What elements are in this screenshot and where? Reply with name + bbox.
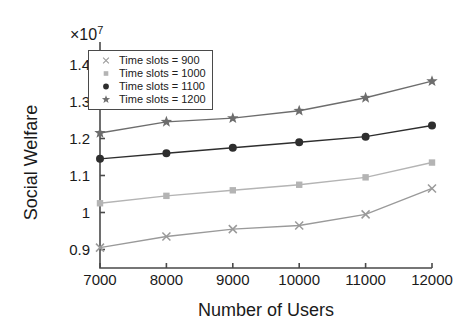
square-icon [104,71,109,76]
square-icon [93,67,119,80]
filled-circle-icon [229,144,237,152]
filled-circle-icon [96,155,104,163]
data-series [97,159,435,206]
legend-item[interactable]: Time slots = 1100 [93,80,206,93]
x-axis-tick-label: 7000 [65,272,135,287]
legend-item-label: Time slots = 1100 [119,80,205,93]
cross-x-icon [428,184,436,192]
x-axis-tick-label: 9000 [198,272,268,287]
x-axis-tick-label: 11000 [331,272,401,287]
star-icon [161,116,172,127]
star-icon [102,95,110,103]
star-icon [227,112,238,123]
legend-item-label: Time slots = 1000 [119,67,206,80]
legend-item[interactable]: Time slots = 1200 [93,93,206,106]
filled-circle-icon [428,122,436,130]
star-icon [360,92,371,103]
filled-circle-icon [162,149,170,157]
filled-circle-icon [362,133,370,141]
data-series [96,122,436,163]
series-line [100,163,432,204]
square-icon [230,187,236,193]
filled-circle-icon [295,138,303,146]
data-series [96,184,436,251]
x-axis-tick-label: 8000 [131,272,201,287]
cross-x-icon [103,58,109,64]
chart-legend: Time slots = 900Time slots = 1000Time sl… [88,50,213,110]
filled-circle-icon [103,84,109,90]
star-icon [426,75,437,86]
x-axis-tick-label: 10000 [264,272,334,287]
legend-item[interactable]: Time slots = 1000 [93,67,206,80]
filled-circle-icon [93,80,119,93]
square-icon [163,193,169,199]
square-icon [362,174,368,180]
chart-figure: ×107 Social Welfare Number of Users 0.91… [0,0,472,333]
square-icon [429,159,435,165]
x-axis-tick-label: 12000 [397,272,467,287]
star-icon [93,93,119,106]
legend-item-label: Time slots = 1200 [119,93,206,106]
square-icon [97,200,103,206]
star-icon [293,105,304,116]
legend-item[interactable]: Time slots = 900 [93,54,206,67]
legend-item-label: Time slots = 900 [119,54,200,67]
cross-x-icon [93,54,119,67]
square-icon [296,182,302,188]
series-line [100,126,432,159]
